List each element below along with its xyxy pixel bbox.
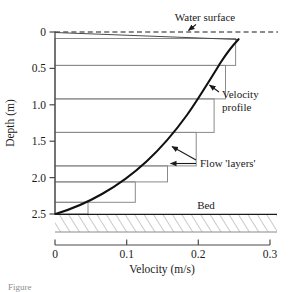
- figure-velocity-profile: 0 0.5 1.0 1.5 2.0 2.5 Depth (m) 0 0.1 0.…: [0, 0, 291, 292]
- annotation-velocity-profile-label-line1: Velocity: [222, 88, 259, 100]
- x-tick-label: 0: [52, 248, 58, 260]
- y-tick-label: 2.0: [32, 172, 47, 184]
- annotation-bed-label: Bed: [197, 199, 215, 211]
- figure-caption-fragment: Figure: [8, 282, 32, 292]
- y-tick-label: 1.5: [32, 135, 47, 147]
- y-tick-label: 0: [40, 26, 46, 38]
- y-tick-label: 1.0: [32, 99, 47, 111]
- y-tick-label: 0.5: [32, 62, 47, 74]
- x-tick-label: 0.1: [120, 248, 135, 260]
- bed-hatching: [55, 215, 277, 232]
- x-tick-label: 0.2: [191, 248, 206, 260]
- y-tick-label: 2.5: [32, 208, 47, 220]
- y-axis-label: Depth (m): [4, 99, 17, 147]
- chart-canvas: 0 0.5 1.0 1.5 2.0 2.5 Depth (m) 0 0.1 0.…: [0, 0, 291, 292]
- x-tick-label: 0.3: [263, 248, 278, 260]
- annotation-flow-layers-label: Flow 'layers': [200, 157, 256, 169]
- x-axis-label: Velocity (m/s): [129, 263, 195, 276]
- annotation-water-surface-label: Water surface: [175, 11, 236, 23]
- annotation-velocity-profile-label-line2: profile: [222, 101, 251, 113]
